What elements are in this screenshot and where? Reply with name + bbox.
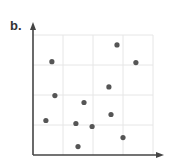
data-point <box>81 100 86 105</box>
data-point <box>108 112 113 117</box>
data-point <box>133 60 138 65</box>
data-points <box>43 42 138 149</box>
data-point <box>43 118 48 123</box>
data-point <box>75 144 80 149</box>
data-point <box>114 42 119 47</box>
data-point <box>120 135 125 140</box>
data-point <box>49 59 54 64</box>
data-point <box>106 84 111 89</box>
grid-lines <box>33 35 153 155</box>
x-axis-arrow-icon <box>156 152 164 158</box>
y-axis-arrow-icon <box>30 22 36 30</box>
data-point <box>73 121 78 126</box>
axes <box>30 22 164 158</box>
data-point <box>90 124 95 129</box>
scatter-plot <box>0 0 172 162</box>
data-point <box>52 93 57 98</box>
